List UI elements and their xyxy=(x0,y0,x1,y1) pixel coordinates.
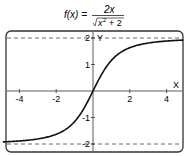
x-tick-label: -2 xyxy=(52,94,60,104)
x-tick-label: 4 xyxy=(164,94,169,104)
x-axis-label: X xyxy=(173,80,179,90)
function-plot: -4-224 -2-112 X Y xyxy=(0,0,188,156)
y-tick-label: -2 xyxy=(82,139,90,149)
y-tick-label: 1 xyxy=(85,60,90,70)
y-tick-label: -1 xyxy=(82,113,90,123)
x-tick-label: -4 xyxy=(15,94,23,104)
x-tick-label: 2 xyxy=(127,94,132,104)
y-tick-label: 2 xyxy=(85,33,90,43)
plot-frame xyxy=(6,31,183,152)
y-axis-label: Y xyxy=(97,33,103,43)
